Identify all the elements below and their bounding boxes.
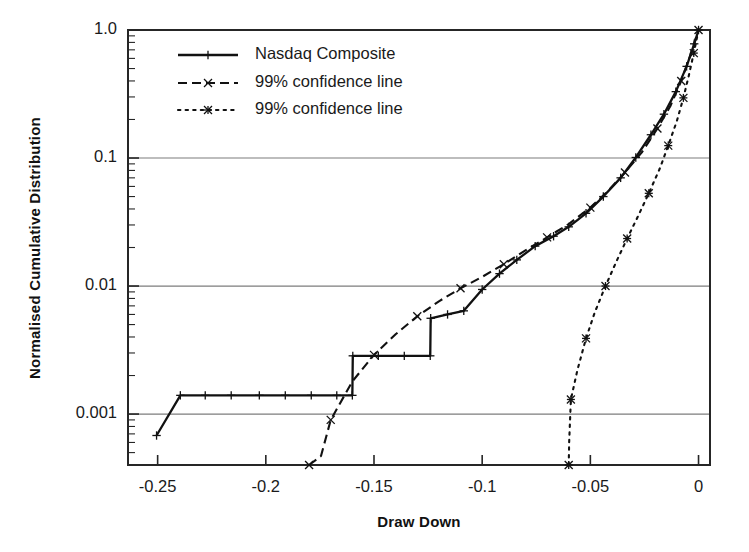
data-marker-star <box>690 49 698 57</box>
legend-label-1: 99% confidence line <box>255 72 403 91</box>
series-2 <box>565 30 699 469</box>
chart-figure: Normalised Cumulative Distribution Draw … <box>0 0 749 552</box>
data-marker-plus <box>333 391 341 399</box>
series-line-2 <box>569 30 699 465</box>
legend-label-2: 99% confidence line <box>255 99 403 118</box>
data-marker-star <box>623 235 631 243</box>
data-marker-plus <box>227 391 235 399</box>
x-tick-label: -0.05 <box>545 477 635 496</box>
y-axis-title: Normalised Cumulative Distribution <box>26 117 43 379</box>
y-tick-label: 0.001 <box>76 403 117 422</box>
data-marker-plus <box>204 51 212 59</box>
x-tick-label: -0.1 <box>437 477 527 496</box>
data-marker-plus <box>201 391 209 399</box>
x-tick-label: 0 <box>654 477 744 496</box>
x-tick-label: -0.2 <box>221 477 311 496</box>
data-series-group <box>152 26 702 469</box>
data-marker-x <box>621 169 629 177</box>
x-tick-label: -0.15 <box>329 477 419 496</box>
data-marker-star <box>645 189 653 197</box>
data-marker-plus <box>281 391 289 399</box>
y-tick-label: 0.1 <box>94 147 117 166</box>
data-marker-plus <box>426 352 434 360</box>
data-marker-star <box>204 106 212 114</box>
series-line-0 <box>157 30 699 436</box>
data-marker-star <box>664 142 672 150</box>
data-marker-plus <box>400 352 408 360</box>
data-marker-x <box>500 260 508 268</box>
series-0 <box>152 26 702 440</box>
data-marker-star <box>601 282 609 290</box>
gridlines-group <box>128 158 710 414</box>
data-marker-plus <box>307 391 315 399</box>
x-axis-title: Draw Down <box>128 513 710 530</box>
data-marker-star <box>582 334 590 342</box>
plot-border <box>128 30 710 465</box>
legend-label-0: Nasdaq Composite <box>255 44 395 63</box>
data-marker-star <box>567 395 575 403</box>
legend-sample-lines <box>178 51 238 114</box>
data-marker-plus <box>426 314 434 322</box>
x-tick-label: -0.25 <box>113 477 203 496</box>
data-marker-plus <box>349 352 357 360</box>
y-tick-label: 1.0 <box>94 19 117 38</box>
data-marker-x <box>413 312 421 320</box>
data-marker-plus <box>348 391 356 399</box>
tick-marks-group <box>128 30 699 465</box>
axis-frame <box>128 30 710 465</box>
y-tick-label: 0.01 <box>85 275 117 294</box>
data-marker-star <box>565 461 573 469</box>
series-line-1 <box>309 30 698 465</box>
data-marker-star <box>679 94 687 102</box>
data-marker-plus <box>443 310 451 318</box>
series-1 <box>305 26 702 469</box>
data-marker-plus <box>255 391 263 399</box>
